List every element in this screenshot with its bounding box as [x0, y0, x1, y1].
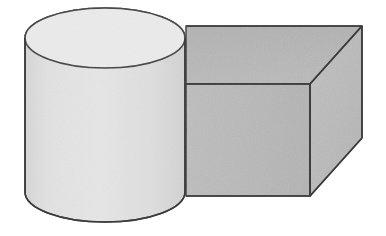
- geometric-solids-svg: Two geometric solids: cylinder and recta…: [0, 0, 386, 236]
- illustration-canvas: Two geometric solids: cylinder and recta…: [0, 0, 386, 236]
- cylinder-solid: [25, 8, 185, 222]
- box-front-face: [186, 84, 310, 196]
- cylinder-top-ellipse: [25, 8, 185, 68]
